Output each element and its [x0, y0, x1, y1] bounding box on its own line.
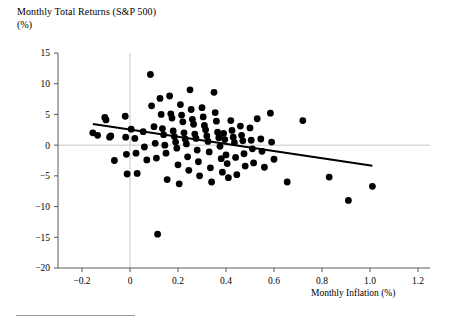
scatter-point [122, 113, 129, 120]
scatter-point [157, 95, 164, 102]
scatter-points-group [89, 71, 375, 238]
x-tick-label: 0.6 [268, 276, 280, 286]
scatter-point [284, 179, 291, 186]
scatter-point [151, 123, 158, 130]
scatter-point [194, 147, 201, 154]
scatter-point [159, 125, 166, 132]
scatter-point [124, 171, 131, 178]
scatter-point [176, 180, 183, 187]
scatter-point [239, 137, 246, 144]
scatter-point [225, 174, 232, 181]
scatter-point [122, 134, 129, 141]
x-tick-label: 0 [128, 276, 133, 286]
y-tick-label: 5 [45, 110, 50, 120]
scatter-point [271, 156, 278, 163]
scatter-point [164, 176, 171, 183]
scatter-point [202, 126, 209, 133]
scatter-point [242, 163, 249, 170]
scatter-point [161, 142, 168, 149]
scatter-point [247, 125, 254, 132]
y-axis-ticks [54, 53, 58, 268]
scatter-point [153, 155, 160, 162]
y-tick-label: −5 [40, 171, 50, 181]
scatter-point [208, 179, 215, 186]
scatter-point [181, 129, 188, 136]
y-tick-label: −20 [35, 263, 50, 273]
y-tick-label: 10 [41, 79, 51, 89]
scatter-point [206, 149, 213, 156]
x-axis-title: Monthly Inflation (%) [311, 288, 395, 298]
scatter-point [179, 118, 186, 125]
x-tick-label: 1.0 [364, 276, 376, 286]
scatter-point [163, 150, 170, 157]
scatter-point [134, 170, 141, 177]
scatter-point [229, 127, 236, 134]
y-axis-tick-labels: 151050−5−10−15−20 [35, 48, 50, 273]
scatter-point [267, 110, 274, 117]
scatter-point [196, 172, 203, 179]
scatter-point [107, 133, 114, 140]
scatter-point [213, 118, 220, 125]
scatter-point [237, 123, 244, 130]
scatter-point [143, 156, 150, 163]
scatter-point [369, 183, 376, 190]
y-tick-label: 0 [45, 141, 50, 151]
scatter-point [326, 174, 333, 181]
scatter-point [257, 136, 264, 143]
scatter-point [232, 154, 239, 161]
chart-figure: Monthly Total Returns (S&P 500) (%) 1510… [0, 0, 453, 325]
x-tick-label: 0.4 [220, 276, 232, 286]
footer-rule [16, 315, 135, 316]
x-axis-ticks [82, 268, 418, 272]
scatter-point [111, 157, 118, 164]
scatter-point [166, 93, 173, 100]
scatter-point [147, 71, 154, 78]
scatter-point [123, 151, 130, 158]
scatter-point [131, 135, 138, 142]
y-tick-label: −10 [35, 202, 50, 212]
scatter-point [220, 130, 227, 137]
scatter-point [178, 112, 185, 119]
scatter-point [299, 117, 306, 124]
scatter-point [184, 153, 191, 160]
scatter-point [133, 150, 140, 157]
scatter-point [177, 101, 184, 108]
x-tick-label: 0.2 [172, 276, 184, 286]
scatter-point [172, 139, 179, 146]
scatter-point [221, 136, 228, 143]
x-tick-label: 0.8 [316, 276, 328, 286]
scatter-point [103, 117, 110, 124]
scatter-point [241, 150, 248, 157]
scatter-point [183, 141, 190, 148]
y-tick-label: −15 [35, 233, 50, 243]
scatter-point [152, 140, 159, 147]
scatter-point [250, 160, 257, 167]
scatter-point [199, 104, 206, 111]
scatter-point [233, 171, 240, 178]
scatter-point [219, 169, 226, 176]
x-tick-label: −0.2 [73, 276, 90, 286]
scatter-point [227, 117, 234, 124]
scatter-point [345, 197, 352, 204]
scatter-point [141, 144, 148, 151]
scatter-point [212, 109, 219, 116]
scatter-point [175, 161, 182, 168]
scatter-point [223, 152, 230, 159]
scatter-point [200, 113, 207, 120]
scatter-point [268, 139, 275, 146]
scatter-plot-canvas: 151050−5−10−15−20 −0.200.20.40.60.81.01.… [0, 0, 453, 325]
scatter-point [211, 89, 218, 96]
scatter-point [224, 160, 231, 167]
scatter-point [148, 102, 155, 109]
scatter-point [207, 164, 214, 171]
scatter-point [158, 111, 165, 118]
scatter-point [185, 167, 192, 174]
scatter-point [195, 158, 202, 165]
scatter-point [188, 106, 195, 113]
x-axis-tick-labels: −0.200.20.40.60.81.01.2 [73, 276, 424, 286]
y-tick-label: 15 [41, 48, 51, 58]
scatter-point [154, 231, 161, 238]
scatter-point [173, 145, 180, 152]
x-tick-label: 1.2 [412, 276, 424, 286]
scatter-point [248, 137, 255, 144]
